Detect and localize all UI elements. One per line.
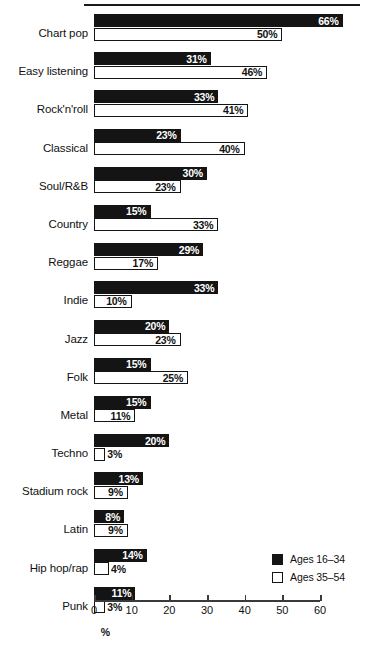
bar-ages-35-54: 11% [94,409,135,422]
bar-value-label: 17% [133,257,153,269]
bar-ages-35-54: 33% [94,218,218,231]
category-label: Easy listening [0,59,88,83]
category-label: Chart pop [0,21,88,45]
bar-value-label: 9% [108,486,123,498]
bar-ages-16-34: 20% [94,434,169,447]
bar-group: 33%10% [94,281,218,308]
bar-value-label: 33% [194,282,214,294]
bar-value-label: 15% [126,396,146,408]
bar-value-label: 15% [126,205,146,217]
bar-value-label: 46% [242,66,262,78]
legend-swatch-light [272,572,283,583]
bar-value-label: 11% [112,587,132,599]
x-axis-tick-label: 0 [91,604,97,616]
chart-row: Indie33%10% [0,281,366,319]
bar-value-label: 10% [106,295,126,307]
x-axis-tick [132,595,134,601]
category-label: Reggae [0,250,88,274]
chart-row: Easy listening31%46% [0,52,366,90]
category-label: Jazz [0,327,88,351]
x-axis-tick [320,595,322,601]
bar-group: 29%17% [94,243,203,270]
chart-legend: Ages 16–34Ages 35–54 [272,552,345,588]
x-axis-tick-label: 20 [163,604,175,616]
bar-group: 33%41% [94,90,248,117]
bar-ages-16-34: 15% [94,396,151,409]
bar-ages-16-34: 30% [94,167,207,180]
bar-group: 15%33% [94,205,218,232]
chart-row: Rock'n'roll33%41% [0,90,366,128]
bar-value-label: 31% [186,53,206,65]
bar-value-label: 14% [122,549,142,561]
bar-ages-35-54: 46% [94,66,267,79]
bar-ages-16-34: 66% [94,14,343,27]
chart-row: Reggae29%17% [0,243,366,281]
category-label: Latin [0,517,88,541]
category-label: Metal [0,403,88,427]
chart-row: Stadium rock13%9% [0,472,366,510]
legend-label: Ages 16–34 [290,552,345,567]
chart-row: Soul/R&B30%23% [0,167,366,205]
bar-ages-35-54: 25% [94,371,188,384]
bar-ages-16-34: 23% [94,129,181,142]
bar-group: 66%50% [94,14,343,41]
category-label: Hip hop/rap [0,556,88,580]
x-axis-tick [169,595,171,601]
bar-group: 14%4% [94,549,147,576]
chart-row: Punk11%3% [0,587,366,625]
bar-ages-35-54: 9% [94,524,128,537]
bar-group: 30%23% [94,167,207,194]
bar-ages-35-54: 23% [94,180,181,193]
x-axis-line [94,600,320,602]
top-divider-rule [84,4,360,6]
bar-ages-35-54: 41% [94,104,248,117]
bar-ages-35-54: 40% [94,142,245,155]
chart-row: Country15%33% [0,205,366,243]
bar-group: 13%9% [94,472,143,499]
x-axis-tick [282,595,284,601]
chart-rows: Chart pop66%50%Easy listening31%46%Rock'… [0,14,366,625]
bar-value-label: 41% [223,104,243,116]
bar-group: 15%11% [94,396,151,423]
bar-ages-16-34: 15% [94,205,151,218]
chart-row: Techno20%3% [0,434,366,472]
bar-value-label: 3% [107,448,122,460]
bar-value-label: 33% [194,91,214,103]
bar-ages-35-54: 17% [94,257,158,270]
legend-swatch-dark [272,554,283,565]
x-axis-tick-label: 10 [126,604,138,616]
bar-value-label: 50% [257,28,277,40]
x-axis-tick [207,595,209,601]
chart-row: Folk15%25% [0,358,366,396]
bar-value-label: 20% [145,320,165,332]
bar-group: 15%25% [94,358,188,385]
bar-value-label: 23% [155,334,175,346]
x-axis-tick [94,595,96,601]
bar-ages-16-34: 13% [94,472,143,485]
bar-ages-35-54: 10% [94,295,132,308]
category-label: Techno [0,441,88,465]
bar-chart: Chart pop66%50%Easy listening31%46%Rock'… [0,0,366,650]
bar-value-label: 15% [126,358,146,370]
bar-value-label: 9% [108,524,123,536]
category-label: Stadium rock [0,479,88,503]
x-axis-title-text: % [101,626,110,638]
bar-value-label: 66% [318,15,338,27]
bar-value-label: 8% [105,511,120,523]
bar-ages-35-54: 23% [94,333,181,346]
bar-ages-16-34: 29% [94,243,203,256]
bar-group: 23%40% [94,129,245,156]
bar-value-label: 3% [107,601,122,613]
category-label: Rock'n'roll [0,97,88,121]
bar-value-label: 30% [183,167,203,179]
bar-ages-16-34: 31% [94,52,211,65]
x-axis-tick-label: 30 [201,604,213,616]
bar-ages-35-54: 50% [94,28,282,41]
bar-value-label: 33% [193,219,213,231]
chart-row: Jazz20%23% [0,320,366,358]
bar-ages-16-34: 20% [94,320,169,333]
x-axis-tick-label: 60 [314,604,326,616]
bar-value-label: 4% [111,563,126,575]
bar-ages-35-54: 9% [94,486,128,499]
bar-ages-16-34: 14% [94,549,147,562]
